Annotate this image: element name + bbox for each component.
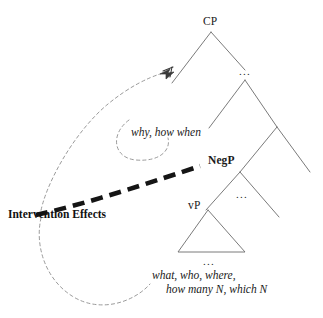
branch-mid-left-negp: [240, 127, 277, 172]
branch-negp-left-vp: [206, 172, 240, 210]
node-label-vp: vP: [188, 200, 201, 212]
wh-arguments-line-1: what, who, where,: [152, 269, 236, 281]
node-label-negp: NegP: [208, 155, 235, 167]
long-movement-arc: [40, 74, 160, 216]
annotation-moved-adjuncts: why, how when: [131, 126, 201, 140]
annotation-intervention-effects: Intervention Effects: [8, 209, 106, 221]
node-label-ellipsis-c: ...: [239, 66, 251, 77]
branch-mid-right: [277, 127, 310, 172]
wh-arguments-line-2: how many N, which N: [152, 282, 267, 296]
branch-ellipsisC-left: [209, 80, 245, 128]
node-label-ellipsis-neg: ...: [236, 189, 248, 200]
annotation-wh-arguments: what, who, where, how many N, which N: [152, 268, 267, 297]
movement-arrowhead: [160, 67, 174, 79]
node-label-cp: CP: [203, 16, 217, 28]
branch-ellipsisC-right: [245, 80, 277, 127]
branch-cp-left: [172, 32, 211, 83]
node-label-ellipsis-vp: ...: [203, 256, 215, 267]
vp-triangle: [178, 210, 245, 252]
argument-movement-arc: [39, 218, 150, 305]
syntax-tree-figure: CP ... NegP ... vP ... why, how when Int…: [0, 0, 323, 318]
